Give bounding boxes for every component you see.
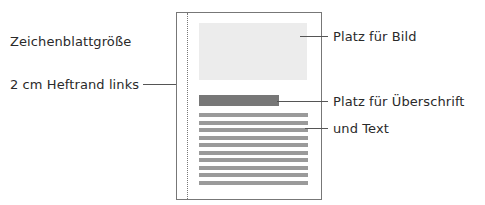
text-line	[199, 166, 308, 170]
text-line	[199, 151, 308, 155]
heading-leader-line	[277, 101, 328, 102]
heading-placeholder	[199, 95, 279, 106]
text-line	[199, 128, 308, 132]
heading-area-label: Platz für Überschrift	[333, 94, 465, 109]
margin-dotted-line	[187, 13, 188, 199]
sheet-size-label: Zeichenblattgröße	[10, 34, 131, 49]
text-line	[199, 181, 308, 185]
text-line	[199, 113, 308, 117]
text-line	[199, 136, 308, 140]
text-line	[199, 143, 308, 147]
image-area-label: Platz für Bild	[333, 29, 417, 44]
text-line	[199, 121, 308, 125]
image-leader-line	[300, 36, 328, 37]
text-area-label: und Text	[333, 121, 389, 136]
text-line	[199, 173, 308, 177]
image-placeholder	[199, 23, 307, 80]
text-line	[199, 158, 308, 162]
text-leader-line	[305, 128, 328, 129]
margin-label: 2 cm Heftrand links	[10, 77, 139, 92]
